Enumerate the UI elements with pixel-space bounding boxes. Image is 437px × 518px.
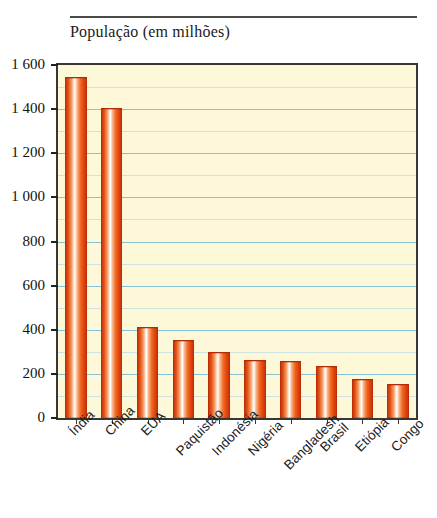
bar bbox=[173, 340, 195, 418]
bar bbox=[137, 327, 159, 418]
x-tick bbox=[362, 420, 363, 424]
bar bbox=[208, 352, 230, 418]
plot-area bbox=[56, 63, 418, 420]
x-axis-label: Congo bbox=[388, 416, 427, 455]
y-tick-label: 0 bbox=[0, 409, 45, 426]
x-tick bbox=[398, 420, 399, 424]
y-tick bbox=[51, 152, 58, 154]
y-tick-label: 1 200 bbox=[0, 144, 45, 161]
bar bbox=[280, 361, 302, 418]
bar bbox=[387, 384, 409, 418]
plot-inner bbox=[58, 65, 416, 418]
bars-layer bbox=[58, 65, 416, 418]
bar bbox=[244, 360, 266, 418]
x-tick bbox=[183, 420, 184, 424]
y-tick-label: 1 400 bbox=[0, 100, 45, 117]
population-bar-chart-figure: População (em milhões) 02004006008001 00… bbox=[0, 0, 437, 518]
y-tick bbox=[51, 241, 58, 243]
x-tick bbox=[291, 420, 292, 424]
y-tick bbox=[51, 108, 58, 110]
chart-title: População (em milhões) bbox=[70, 23, 230, 41]
y-tick-label: 200 bbox=[0, 365, 45, 382]
y-tick-label: 400 bbox=[0, 321, 45, 338]
header-divider bbox=[70, 16, 417, 18]
y-tick bbox=[51, 196, 58, 198]
x-tick bbox=[76, 420, 77, 424]
y-tick bbox=[51, 329, 58, 331]
x-tick bbox=[255, 420, 256, 424]
y-tick-label: 1 000 bbox=[0, 188, 45, 205]
y-tick-label: 600 bbox=[0, 277, 45, 294]
x-tick bbox=[219, 420, 220, 424]
bar bbox=[316, 366, 338, 418]
x-axis-label: Brasil bbox=[317, 420, 351, 454]
y-tick bbox=[51, 64, 58, 66]
x-axis-label: Etiópia bbox=[352, 415, 392, 455]
bar bbox=[352, 379, 374, 418]
y-tick bbox=[51, 417, 58, 419]
x-tick bbox=[327, 420, 328, 424]
y-tick-label: 1 600 bbox=[0, 56, 45, 73]
y-tick bbox=[51, 373, 58, 375]
x-tick bbox=[112, 420, 113, 424]
bar bbox=[101, 108, 123, 418]
x-tick bbox=[148, 420, 149, 424]
y-tick bbox=[51, 285, 58, 287]
y-tick-label: 800 bbox=[0, 233, 45, 250]
bar bbox=[65, 77, 87, 418]
x-axis-label: Nigéria bbox=[245, 418, 286, 459]
